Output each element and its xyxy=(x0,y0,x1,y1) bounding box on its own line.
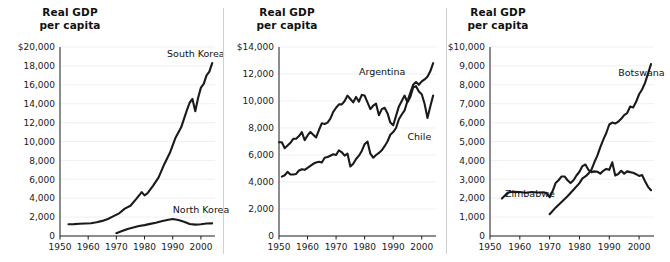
y-axis-tick-label: 0 xyxy=(49,231,55,241)
y-axis-tick-label: $20,000 xyxy=(18,42,55,52)
chart-panel-botswana-zimbabwe: Real GDP per capita 01,0002,0003,0004,00… xyxy=(446,0,669,262)
x-axis-tick-label: 1950 xyxy=(479,242,502,252)
y-axis-tick-label: 2,000 xyxy=(248,204,274,214)
y-axis-tick-label: 4,000 xyxy=(248,177,274,187)
x-axis-tick-label: 2000 xyxy=(410,242,433,252)
y-axis-tick-label: 2,000 xyxy=(459,193,485,203)
plot-korea: 02,0004,0006,0008,00010,00012,00014,0001… xyxy=(18,42,229,252)
y-axis-tick-label: 16,000 xyxy=(24,80,56,90)
x-axis-tick-label: 1960 xyxy=(508,242,531,252)
x-axis-tick-label: 2000 xyxy=(628,242,651,252)
y-axis-tick-label: $14,000 xyxy=(237,42,274,52)
y-axis-tick-label: 0 xyxy=(268,231,274,241)
chart-svg-botswana-zimbabwe: 01,0002,0003,0004,0005,0006,0007,0008,00… xyxy=(446,0,669,262)
series-line-south-korea xyxy=(68,63,212,224)
y-axis-tick-label: 12,000 xyxy=(24,118,56,128)
chart-svg-korea: 02,0004,0006,0008,00010,00012,00014,0001… xyxy=(0,0,223,262)
series-label-chile: Chile xyxy=(407,131,431,142)
y-axis-tick-label: 1,000 xyxy=(459,212,485,222)
x-axis-tick-label: 1980 xyxy=(133,242,156,252)
y-axis-tick-label: 0 xyxy=(479,231,485,241)
y-axis-tick-label: 6,000 xyxy=(459,118,485,128)
y-axis-tick-label: 4,000 xyxy=(459,156,485,166)
y-axis-tick-label: 8,000 xyxy=(248,123,274,133)
x-axis-tick-label: 1970 xyxy=(538,242,561,252)
x-axis-tick-label: 2000 xyxy=(189,242,212,252)
y-axis-tick-label: $10,000 xyxy=(448,42,485,52)
series-label-botswana: Botswana xyxy=(618,67,664,78)
y-axis-tick-label: 3,000 xyxy=(459,175,485,185)
plot-argentina-chile: 02,0004,0006,0008,00010,00012,000$14,000… xyxy=(237,42,436,252)
series-line-chile xyxy=(282,63,433,176)
x-axis-tick-label: 1990 xyxy=(161,242,184,252)
x-axis-tick-label: 1980 xyxy=(353,242,376,252)
y-axis-tick-label: 8,000 xyxy=(459,80,485,90)
x-axis-tick-label: 1990 xyxy=(598,242,621,252)
y-axis-tick-label: 9,000 xyxy=(459,61,485,71)
chart-svg-argentina-chile: 02,0004,0006,0008,00010,00012,000$14,000… xyxy=(223,0,446,262)
series-label-south-korea: South Korea xyxy=(167,48,225,59)
y-axis-tick-label: 14,000 xyxy=(24,99,56,109)
series-label-argentina: Argentina xyxy=(359,66,405,77)
gdp-per-capita-figure: Real GDP per capita 02,0004,0006,0008,00… xyxy=(0,0,670,262)
x-axis-tick-label: 1950 xyxy=(49,242,72,252)
chart-panel-argentina-chile: Real GDP per capita 02,0004,0006,0008,00… xyxy=(223,0,446,262)
y-axis-tick-label: 4,000 xyxy=(29,193,55,203)
x-axis-tick-label: 1990 xyxy=(382,242,405,252)
y-axis-tick-label: 7,000 xyxy=(459,99,485,109)
x-axis-tick-label: 1950 xyxy=(268,242,291,252)
plot-botswana-zimbabwe: 01,0002,0003,0004,0005,0006,0007,0008,00… xyxy=(448,42,665,252)
x-axis-tick-label: 1970 xyxy=(325,242,348,252)
y-axis-tick-label: 18,000 xyxy=(24,61,56,71)
y-axis-tick-label: 2,000 xyxy=(29,212,55,222)
x-axis-tick-label: 1960 xyxy=(296,242,319,252)
x-axis-tick-label: 1970 xyxy=(105,242,128,252)
y-axis-tick-label: 10,000 xyxy=(24,137,56,147)
y-axis-tick-label: 12,000 xyxy=(243,69,275,79)
y-axis-tick-label: 8,000 xyxy=(29,156,55,166)
series-label-north-korea: North Korea xyxy=(173,204,230,215)
y-axis-tick-label: 6,000 xyxy=(248,150,274,160)
series-line-north-korea xyxy=(116,219,212,233)
y-axis-tick-label: 6,000 xyxy=(29,175,55,185)
series-line-botswana xyxy=(550,64,651,214)
chart-panel-korea: Real GDP per capita 02,0004,0006,0008,00… xyxy=(0,0,223,262)
series-label-zimbabwe: Zimbabwe xyxy=(505,188,555,199)
x-axis-tick-label: 1960 xyxy=(77,242,100,252)
y-axis-tick-label: 10,000 xyxy=(243,96,275,106)
x-axis-tick-label: 1980 xyxy=(568,242,591,252)
y-axis-tick-label: 5,000 xyxy=(459,137,485,147)
